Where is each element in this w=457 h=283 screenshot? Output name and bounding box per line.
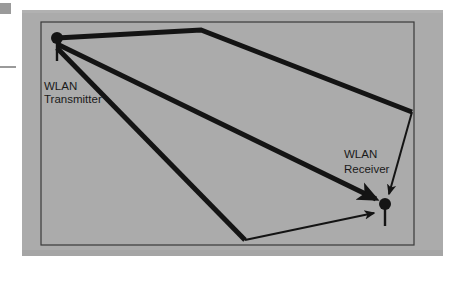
transmitter-node-dot xyxy=(51,32,63,44)
receiver-label-line2: Receiver xyxy=(344,163,390,175)
receiver-node-dot xyxy=(379,198,391,210)
margin-rule-mark xyxy=(0,66,16,68)
receiver-label-line1: WLAN xyxy=(344,148,377,160)
transmitter-label-line1: WLAN xyxy=(44,80,77,92)
panel-shade-bottom xyxy=(22,250,443,256)
figure-panel xyxy=(22,10,443,256)
margin-top-mark xyxy=(0,3,11,14)
multipath-propagation-figure: WLAN Transmitter WLAN Receiver xyxy=(0,0,457,283)
panel-shade-top xyxy=(22,10,443,13)
propagation-diagram-canvas: WLAN Transmitter WLAN Receiver xyxy=(0,0,457,283)
transmitter-label-line2: Transmitter xyxy=(44,93,102,105)
